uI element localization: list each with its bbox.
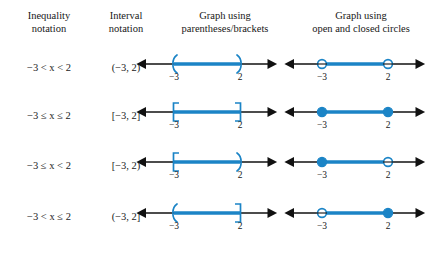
- column-header-graph-circles: Graph using open and closed circles: [288, 9, 434, 35]
- column-header-interval-notation: Interval notation: [93, 9, 159, 35]
- closed-circle-icon: [317, 157, 326, 166]
- number-line-parentheses-svg: [136, 196, 278, 243]
- tick-label-left: −3: [161, 221, 187, 232]
- tick-label-left: −3: [161, 120, 187, 131]
- table-header-row: Inequality notation Interval notation Gr…: [0, 9, 436, 39]
- tick-label-left: −3: [309, 120, 335, 131]
- column-header-graph-parentheses: Graph using parentheses/brackets: [160, 9, 290, 35]
- column-header-parentheses-line2: parentheses/brackets: [160, 22, 290, 35]
- tick-label-right: 2: [227, 221, 253, 232]
- table-row: −3 < x < 2 (−3, 2) −3 2: [0, 47, 436, 94]
- tick-label-left: −3: [309, 221, 335, 232]
- column-header-interval-line1: Interval: [93, 9, 159, 22]
- column-header-circles-line1: Graph using: [288, 9, 434, 22]
- inequality-notation-value: −3 ≤ x ≤ 2: [10, 109, 88, 123]
- column-header-parentheses-line1: Graph using: [160, 9, 290, 22]
- table-row: −3 ≤ x < 2 [−3, 2) −3 2: [0, 145, 436, 192]
- closed-circle-icon: [317, 107, 326, 116]
- number-line-parentheses-svg: [136, 47, 278, 94]
- tick-label-right: 2: [375, 120, 401, 131]
- number-line-circles: −3 2: [284, 145, 426, 192]
- number-line-parentheses: −3 2: [136, 145, 278, 192]
- column-header-inequality-line2: notation: [10, 22, 88, 35]
- number-line-parentheses-svg: [136, 95, 278, 142]
- number-line-circles: −3 2: [284, 47, 426, 94]
- number-line-circles-svg: [284, 196, 426, 243]
- tick-label-left: −3: [161, 170, 187, 181]
- number-line-circles-svg: [284, 47, 426, 94]
- table-row: −3 < x ≤ 2 (−3, 2] −3 2: [0, 196, 436, 243]
- tick-label-right: 2: [375, 170, 401, 181]
- number-line-parentheses: −3 2: [136, 196, 278, 243]
- tick-label-left: −3: [309, 72, 335, 83]
- closed-circle-icon: [383, 208, 392, 217]
- inequality-notation-value: −3 < x ≤ 2: [10, 210, 88, 224]
- inequality-notation-value: −3 ≤ x < 2: [10, 159, 88, 173]
- tick-label-right: 2: [227, 170, 253, 181]
- table-row: −3 ≤ x ≤ 2 [−3, 2] −3 2: [0, 95, 436, 142]
- inequality-notation-value: −3 < x < 2: [10, 61, 88, 75]
- number-line-parentheses-svg: [136, 145, 278, 192]
- tick-label-right: 2: [227, 72, 253, 83]
- number-line-circles: −3 2: [284, 196, 426, 243]
- closed-circle-icon: [383, 107, 392, 116]
- number-line-circles: −3 2: [284, 95, 426, 142]
- tick-label-right: 2: [375, 221, 401, 232]
- number-line-parentheses: −3 2: [136, 47, 278, 94]
- column-header-inequality-notation: Inequality notation: [10, 9, 88, 35]
- tick-label-right: 2: [375, 72, 401, 83]
- column-header-interval-line2: notation: [93, 22, 159, 35]
- tick-label-left: −3: [161, 72, 187, 83]
- tick-label-left: −3: [309, 170, 335, 181]
- column-header-inequality-line1: Inequality: [10, 9, 88, 22]
- interval-notation-figure: Inequality notation Interval notation Gr…: [0, 0, 436, 263]
- number-line-circles-svg: [284, 145, 426, 192]
- number-line-circles-svg: [284, 95, 426, 142]
- tick-label-right: 2: [227, 120, 253, 131]
- number-line-parentheses: −3 2: [136, 95, 278, 142]
- column-header-circles-line2: open and closed circles: [288, 22, 434, 35]
